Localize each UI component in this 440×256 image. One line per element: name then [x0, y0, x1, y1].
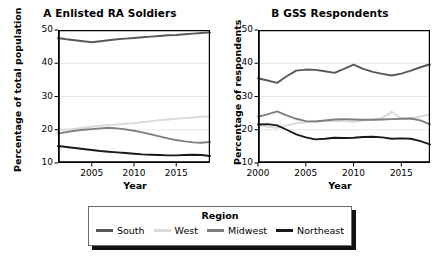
legend: Region SouthWestMidwestNortheast	[88, 206, 352, 246]
y-tick-label: 20	[34, 124, 53, 134]
legend-item-label: Midwest	[228, 225, 267, 236]
legend-line-icon	[154, 229, 171, 232]
panel-a-title: A Enlisted RA Soldiers	[0, 7, 220, 19]
legend-items: SouthWestMidwestNortheast	[89, 225, 351, 236]
x-tick-label: 2010	[338, 168, 370, 178]
legend-line-icon	[207, 229, 224, 232]
y-tick-label: 30	[234, 91, 253, 101]
x-tick-label: 2005	[290, 168, 322, 178]
legend-item-west[interactable]: West	[154, 225, 198, 236]
legend-item-south[interactable]: South	[96, 225, 145, 236]
panel-a: A Enlisted RA Soldiers Percentage of tot…	[0, 0, 220, 200]
x-tick-label: 2015	[160, 168, 192, 178]
y-tick-label: 50	[234, 24, 253, 34]
y-tick-label: 10	[34, 157, 53, 167]
x-tick-label: 2000	[242, 168, 274, 178]
y-tick-label: 40	[34, 57, 53, 67]
y-tick-label: 40	[234, 57, 253, 67]
panel-b-plot-area	[258, 30, 430, 163]
legend-item-label: Northeast	[297, 225, 344, 236]
legend-title: Region	[89, 210, 351, 221]
y-tick-label: 10	[234, 157, 253, 167]
y-tick-label: 50	[34, 24, 53, 34]
panel-a-plot-area	[58, 30, 210, 163]
legend-line-icon	[96, 229, 113, 232]
panel-a-x-axis-label: Year	[60, 180, 210, 191]
legend-item-northeast[interactable]: Northeast	[276, 225, 344, 236]
x-tick-label: 2010	[118, 168, 150, 178]
x-tick-label: 2005	[76, 168, 108, 178]
x-tick-label: 2015	[385, 168, 417, 178]
legend-line-icon	[276, 229, 293, 232]
panel-b: B GSS Respondents Percentage of responde…	[220, 0, 440, 200]
y-tick-label: 30	[34, 91, 53, 101]
figure-two-panel-line-charts: A Enlisted RA Soldiers Percentage of tot…	[0, 0, 440, 256]
panel-a-y-axis-label: Percentage of total population	[12, 7, 23, 172]
legend-item-label: South	[117, 225, 145, 236]
panel-b-x-axis-label: Year	[260, 180, 420, 191]
panel-b-title: B GSS Respondents	[220, 7, 440, 19]
legend-item-midwest[interactable]: Midwest	[207, 225, 267, 236]
legend-item-label: West	[175, 225, 198, 236]
y-tick-label: 20	[234, 124, 253, 134]
